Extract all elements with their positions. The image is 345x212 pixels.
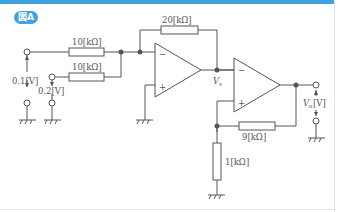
opamp2-plus: + xyxy=(238,98,245,108)
opamp1-minus: − xyxy=(159,49,166,59)
resistor-label-1k: 1[kΩ] xyxy=(225,157,249,167)
vs-subscript: s xyxy=(219,81,222,87)
ground-symbol xyxy=(19,120,325,199)
resistor-label-10k-2: 10[kΩ] xyxy=(72,62,102,72)
input-voltage-label-1: 0.1[V] xyxy=(12,76,38,86)
resistor-label-10k-1: 10[kΩ] xyxy=(72,37,102,47)
opamp1-plus: + xyxy=(159,82,166,92)
opamp2-minus: − xyxy=(238,65,245,75)
vo-unit: [V] xyxy=(313,98,326,108)
resistor-label-20k: 20[kΩ] xyxy=(162,15,192,25)
input-voltage-label-2: 0.2[V] xyxy=(38,86,64,96)
resistor-label-9k: 9[kΩ] xyxy=(242,132,266,142)
circuit-diagram: 10[kΩ] 10[kΩ] 20[kΩ] 9[kΩ] 1[kΩ] 0.1[V] … xyxy=(0,0,345,212)
